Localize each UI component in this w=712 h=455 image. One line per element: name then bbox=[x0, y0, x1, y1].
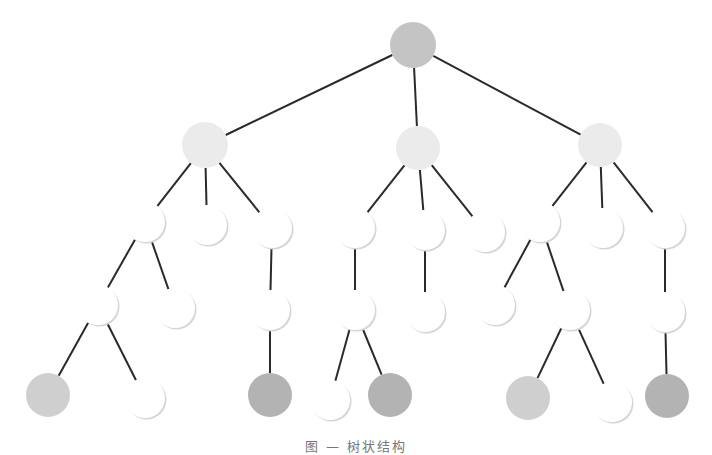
tree-edge bbox=[206, 168, 207, 205]
tree-node bbox=[592, 382, 634, 424]
tree-node bbox=[520, 202, 562, 244]
tree-node bbox=[368, 373, 412, 417]
tree-edge bbox=[578, 328, 603, 384]
tree-node bbox=[26, 373, 70, 417]
tree-node bbox=[578, 123, 622, 167]
tree-node bbox=[506, 376, 550, 420]
tree-node bbox=[187, 205, 229, 247]
tree-nodes bbox=[26, 22, 689, 424]
tree-edge bbox=[157, 163, 191, 206]
tree-node bbox=[248, 373, 292, 417]
tree-node bbox=[645, 374, 689, 418]
tree-edge bbox=[614, 162, 653, 212]
tree-edge bbox=[107, 323, 136, 380]
tree-edge bbox=[414, 68, 417, 126]
tree-node bbox=[405, 210, 447, 252]
tree-edge bbox=[271, 248, 272, 290]
tree-edge bbox=[538, 328, 562, 378]
tree-edge bbox=[108, 239, 135, 287]
tree-node bbox=[550, 290, 592, 332]
tree-node bbox=[405, 292, 447, 334]
tree-edge bbox=[363, 329, 382, 375]
tree-edge bbox=[152, 241, 169, 289]
tree-node bbox=[645, 292, 687, 334]
tree-edge bbox=[433, 56, 580, 135]
tree-edge bbox=[226, 55, 393, 135]
tree-edge bbox=[335, 329, 349, 380]
tree-node bbox=[396, 126, 440, 170]
tree-node bbox=[78, 285, 120, 327]
tree-node bbox=[125, 202, 167, 244]
tree-node bbox=[250, 290, 292, 332]
tree-node bbox=[335, 208, 377, 250]
tree-edge bbox=[420, 170, 423, 210]
tree-node bbox=[252, 208, 294, 250]
tree-edge bbox=[505, 240, 531, 288]
tree-edge bbox=[601, 167, 603, 208]
tree-edge bbox=[367, 165, 404, 212]
tree-node bbox=[182, 122, 228, 168]
tree-node bbox=[310, 380, 352, 422]
figure-caption: 图 — 树状结构 bbox=[0, 436, 712, 455]
tree-node bbox=[583, 208, 625, 250]
tree-edge bbox=[547, 241, 564, 291]
tree-edge bbox=[666, 332, 667, 374]
tree-edge bbox=[219, 163, 259, 213]
tree-node bbox=[645, 208, 687, 250]
tree-node bbox=[335, 290, 377, 332]
tree-node bbox=[155, 288, 197, 330]
tree-node bbox=[475, 285, 517, 327]
tree-edge bbox=[432, 165, 473, 216]
tree-edge bbox=[552, 162, 586, 206]
tree-edge bbox=[59, 323, 89, 376]
tree-node bbox=[465, 212, 507, 254]
tree-node bbox=[125, 378, 167, 420]
tree-node bbox=[390, 22, 436, 68]
